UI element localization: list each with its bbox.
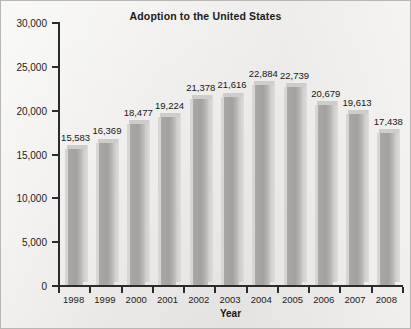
bar-side-face <box>176 113 181 282</box>
bar-side-face <box>239 93 244 283</box>
x-axis-tick <box>152 287 154 293</box>
x-axis-tick-label: 2003 <box>219 294 240 305</box>
bar <box>346 114 364 286</box>
y-axis-tick-label: 0 <box>41 281 47 292</box>
x-axis-title: Year <box>58 308 403 319</box>
y-axis-tick <box>52 241 59 243</box>
y-axis-tick <box>52 154 59 156</box>
bar-front-face <box>65 149 83 286</box>
bar-front-face <box>377 133 395 286</box>
bar-value-label: 21,616 <box>217 79 246 90</box>
x-axis-tick <box>339 287 341 293</box>
bar-value-label: 15,583 <box>61 132 90 143</box>
y-axis-tick <box>52 110 59 112</box>
bar-front-face <box>346 114 364 286</box>
bar <box>190 99 208 286</box>
y-axis-tick-label: 15,000 <box>16 149 47 160</box>
x-axis-tick <box>246 287 248 293</box>
bar-front-face <box>158 117 176 286</box>
x-axis-tick-label: 1999 <box>94 294 115 305</box>
bar-side-face <box>333 101 338 282</box>
bar-front-face <box>315 105 333 286</box>
bar-value-label: 22,884 <box>249 68 278 79</box>
bar-value-label: 21,378 <box>186 82 215 93</box>
bar-value-label: 20,679 <box>311 88 340 99</box>
bar <box>221 97 239 287</box>
y-axis-tick-label: 5,000 <box>22 237 47 248</box>
bar-side-face <box>208 95 213 282</box>
bar <box>377 133 395 286</box>
x-axis-tick <box>214 287 216 293</box>
x-axis-tick <box>121 287 123 293</box>
bar-value-label: 22,739 <box>280 70 309 81</box>
bar-value-label: 16,369 <box>92 125 121 136</box>
plot-area <box>58 23 402 286</box>
bar <box>158 117 176 286</box>
y-axis-tick-label: 10,000 <box>16 193 47 204</box>
y-axis-tick <box>52 22 59 24</box>
bar-front-face <box>127 124 145 286</box>
bar-front-face <box>284 87 302 286</box>
bar <box>315 105 333 286</box>
x-axis-tick-label: 2007 <box>345 294 366 305</box>
x-axis-tick-label: 2006 <box>313 294 334 305</box>
bar-front-face <box>221 97 239 287</box>
x-axis-tick-label: 2001 <box>157 294 178 305</box>
y-axis-tick-label: 20,000 <box>16 105 47 116</box>
y-axis-tick-label: 25,000 <box>16 61 47 72</box>
bar-side-face <box>83 145 88 282</box>
bar <box>96 143 114 287</box>
x-axis-tick <box>183 287 185 293</box>
bar-side-face <box>302 83 307 282</box>
bar-value-label: 18,477 <box>124 107 153 118</box>
y-axis-tick <box>52 66 59 68</box>
x-axis-tick-label: 2004 <box>251 294 272 305</box>
x-axis-line <box>58 285 403 287</box>
x-axis-tick-label: 2005 <box>282 294 303 305</box>
bar-value-label: 19,224 <box>155 100 184 111</box>
bar <box>65 149 83 286</box>
x-axis-tick <box>89 287 91 293</box>
bar-side-face <box>364 110 369 282</box>
x-axis-tick <box>371 287 373 293</box>
bar-value-label: 19,613 <box>343 97 372 108</box>
chart-title: Adoption to the United States <box>1 10 410 22</box>
bar <box>252 85 270 286</box>
x-axis-tick <box>58 287 60 293</box>
y-axis-tick <box>52 197 59 199</box>
x-axis-tick <box>277 287 279 293</box>
x-axis-tick-label: 2000 <box>126 294 147 305</box>
bar-front-face <box>252 85 270 286</box>
bar <box>284 87 302 286</box>
x-axis-tick-label: 2008 <box>376 294 397 305</box>
x-axis-tick-label: 2002 <box>188 294 209 305</box>
x-axis-tick <box>402 287 404 293</box>
bar-front-face <box>190 99 208 286</box>
bar-value-label: 17,438 <box>374 116 403 127</box>
bar-front-face <box>96 143 114 287</box>
bar-side-face <box>145 120 150 282</box>
bar <box>127 124 145 286</box>
bar-side-face <box>395 129 400 282</box>
bar-side-face <box>114 139 119 283</box>
x-axis-tick-label: 1998 <box>63 294 84 305</box>
bar-chart-figure: Adoption to the United States 05,00010,0… <box>0 0 411 329</box>
bar-side-face <box>270 81 275 282</box>
x-axis-tick <box>308 287 310 293</box>
